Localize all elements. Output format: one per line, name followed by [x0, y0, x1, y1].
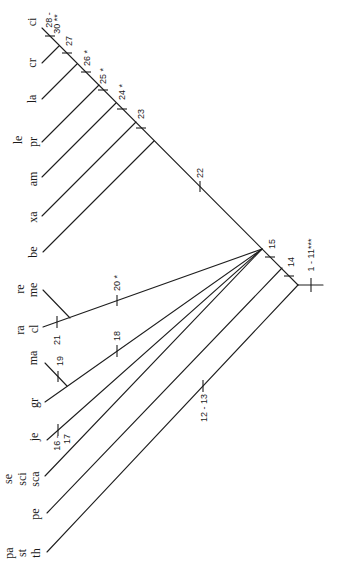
branch-gr — [45, 249, 262, 402]
cladogram: ci cr la le pr am xa be re me ra cl ma g… — [0, 0, 339, 573]
taxon-label: ma — [26, 350, 40, 365]
branches — [42, 28, 323, 552]
taxon-label: xa — [26, 211, 40, 223]
branch-cl — [43, 249, 262, 327]
branch-xa — [42, 122, 136, 216]
taxon-label: be — [26, 246, 40, 257]
character-label-19: 19 — [55, 356, 65, 366]
taxon-label: ra — [13, 325, 27, 335]
character-label-25: 25 * — [98, 67, 108, 84]
character-label-15: 15 — [267, 239, 277, 249]
character-label-22: 22 — [195, 168, 205, 178]
branch-me — [43, 290, 70, 318]
branch-am — [42, 103, 116, 177]
taxon-label: se — [1, 474, 15, 484]
branch-la — [42, 64, 77, 99]
taxon-labels: ci cr la le pr am xa be re me ra cl ma g… — [1, 17, 43, 559]
character-label-21: 21 — [52, 335, 62, 345]
taxon-label: pr — [26, 137, 40, 147]
branch-sca — [45, 249, 262, 476]
character-label-24: 24 * — [117, 83, 127, 100]
taxon-label: le — [11, 136, 25, 145]
taxon-label: st — [15, 548, 29, 557]
character-label-17: 17 — [62, 434, 72, 444]
taxon-label: pe — [28, 508, 42, 519]
branch-th — [47, 285, 298, 552]
taxon-label: re — [13, 284, 27, 293]
taxon-label: je — [27, 433, 41, 443]
character-label-30: 30 ** — [52, 14, 62, 34]
branch-cr — [42, 46, 59, 63]
taxon-label: me — [26, 283, 40, 298]
taxon-label: am — [26, 171, 40, 186]
character-label-16: 16 - — [52, 435, 62, 451]
branch-pr — [42, 85, 99, 142]
taxon-label: sci — [15, 472, 29, 486]
character-label-20: 20 * — [112, 274, 122, 291]
character-label-12-13: 12 - 13 — [199, 394, 209, 422]
character-label-14: 14 — [286, 257, 296, 267]
character-label-1-11: 1 - 11*** — [306, 238, 316, 271]
character-label-27: 27 — [64, 36, 74, 46]
taxon-label: la — [25, 94, 39, 103]
character-label-23: 23 — [136, 109, 146, 119]
branch-pe — [47, 268, 282, 513]
branch-be — [43, 141, 154, 252]
character-labels: 1 - 11*** 12 - 13 14 15 16 - 17 18 19 20… — [44, 12, 316, 451]
taxon-label: sca — [28, 471, 42, 487]
character-label-26: 26 * — [82, 49, 92, 66]
character-label-18: 18 — [112, 331, 122, 341]
branch-je — [47, 249, 262, 440]
taxon-label: gr — [27, 398, 41, 408]
taxon-label: cl — [27, 324, 41, 333]
taxon-label: th — [29, 548, 43, 557]
taxon-label: pa — [2, 547, 16, 559]
taxon-label: ci — [25, 17, 39, 26]
main-spine-branch — [42, 28, 298, 285]
taxon-label: cr — [25, 58, 39, 67]
